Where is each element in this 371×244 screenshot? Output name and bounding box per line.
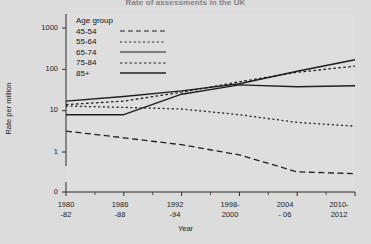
figure: Rate of assessments in the UK 1000 100 1… <box>0 0 371 244</box>
chart-canvas <box>0 0 371 244</box>
series-group <box>66 60 355 174</box>
series-line-65-74 <box>66 60 355 101</box>
series-line-85+ <box>66 85 355 115</box>
series-line-55-64 <box>66 106 355 126</box>
axis-group <box>62 14 355 196</box>
series-line-45-54 <box>66 131 355 174</box>
series-line-75-84 <box>66 66 355 105</box>
